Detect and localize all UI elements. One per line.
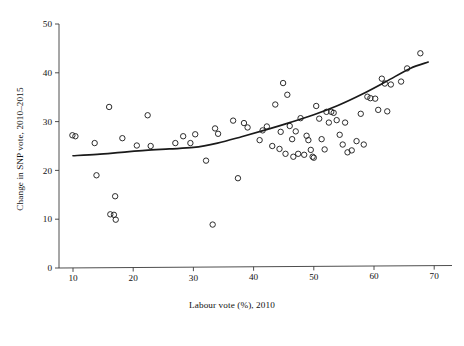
data-point [106,104,111,109]
data-point [283,151,288,156]
y-axis-label: Change in SNP vote, 2010–2015 [15,49,25,249]
data-point [308,147,313,152]
data-point [376,107,381,112]
x-tick-label: 20 [129,273,139,283]
data-point [273,102,278,107]
data-point [145,113,150,118]
y-tick-label: 30 [43,117,53,127]
data-point [398,79,403,84]
data-point [293,129,298,134]
data-point [203,158,208,163]
data-point [235,176,240,181]
data-point [295,151,300,156]
data-points-group [70,51,423,228]
data-point [188,140,193,145]
trend-curve [73,62,428,156]
data-point [215,131,220,136]
data-point [212,126,217,131]
y-tick-label: 20 [43,166,53,176]
data-point [120,135,125,140]
x-axis-line [59,266,452,269]
data-point [277,146,282,151]
data-point [245,125,250,130]
data-point [314,103,319,108]
y-tick-label: 0 [47,263,52,273]
data-point [285,92,290,97]
data-point [361,142,366,147]
data-point [385,109,390,114]
data-point [301,152,306,157]
data-point [379,76,384,81]
x-tick-label: 30 [189,273,199,283]
data-point [388,82,393,87]
x-axis-label: Labour vote (%), 2010 [0,300,464,310]
data-point [278,129,283,134]
data-point [287,123,292,128]
data-point [112,194,117,199]
data-point [319,136,324,141]
data-point [354,138,359,143]
data-point [94,173,99,178]
data-point [92,140,97,145]
data-point [230,118,235,123]
data-point [340,142,345,147]
data-point [418,51,423,56]
x-tick-label: 10 [68,273,78,283]
data-point [270,143,275,148]
data-point [193,132,198,137]
data-point [337,132,342,137]
scatter-plot-figure: 0102030405010203040506070 Labour vote (%… [0,0,464,346]
data-point [289,136,294,141]
trend-curve-group [73,62,428,156]
data-point [317,116,322,121]
data-point [210,222,215,227]
data-point [342,120,347,125]
data-point [113,217,118,222]
data-point [148,143,153,148]
data-point [358,111,363,116]
data-point [334,117,339,122]
y-tick-label: 10 [43,214,53,224]
data-point [180,134,185,139]
y-tick-label: 40 [43,68,53,78]
data-point [257,137,262,142]
data-point [280,80,285,85]
x-tick-label: 70 [430,271,440,281]
plot-canvas: 0102030405010203040506070 [0,0,464,346]
x-tick-label: 40 [249,272,259,282]
x-tick-label: 50 [309,272,319,282]
x-tick-label: 60 [369,271,379,281]
axes-group: 0102030405010203040506070 [43,19,452,283]
data-point [322,147,327,152]
data-point [134,143,139,148]
y-tick-label: 50 [43,19,53,29]
data-point [173,140,178,145]
data-point [326,120,331,125]
